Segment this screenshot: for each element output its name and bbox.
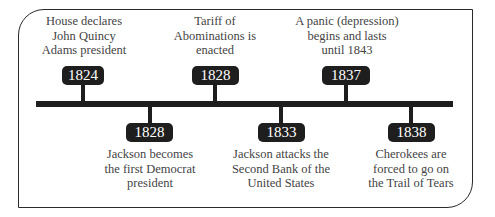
- event-label-1828-tariff: Tariff of Abominations is enacted: [145, 14, 285, 58]
- year-badge-1824: 1824: [62, 66, 104, 85]
- label-line: Adams president: [14, 43, 154, 58]
- stem-1828-top: [213, 85, 217, 102]
- stem-1828-bottom: [148, 106, 152, 124]
- stem-1838: [409, 106, 413, 124]
- label-line: begins and lasts: [277, 29, 417, 44]
- label-line: A panic (depression): [277, 14, 417, 29]
- label-line: enacted: [145, 43, 285, 58]
- label-line: Jackson becomes: [80, 147, 220, 162]
- year-badge-1833: 1833: [258, 123, 305, 142]
- label-line: Abominations is: [145, 29, 285, 44]
- label-line: forced to go on: [341, 162, 481, 177]
- event-label-1824: House declares John Quincy Adams preside…: [14, 14, 154, 58]
- stem-1824: [81, 85, 85, 102]
- label-line: until 1843: [277, 43, 417, 58]
- year-badge-1828-top: 1828: [192, 66, 239, 85]
- stem-1833: [279, 106, 283, 124]
- label-line: the Trail of Tears: [341, 176, 481, 191]
- timeline-bar: [36, 101, 453, 107]
- label-line: Tariff of: [145, 14, 285, 29]
- year-badge-1838: 1838: [388, 123, 435, 142]
- label-line: House declares: [14, 14, 154, 29]
- label-line: the first Democrat: [80, 162, 220, 177]
- event-label-1838: Cherokees are forced to go on the Trail …: [341, 147, 481, 191]
- year-badge-1837: 1837: [322, 66, 370, 85]
- event-label-1828-jackson: Jackson becomes the first Democrat presi…: [80, 147, 220, 191]
- stem-1837: [344, 85, 348, 102]
- year-badge-1828-bottom: 1828: [126, 123, 173, 142]
- label-line: Jackson attacks the: [211, 147, 351, 162]
- label-line: president: [80, 176, 220, 191]
- label-line: United States: [211, 176, 351, 191]
- label-line: Second Bank of the: [211, 162, 351, 177]
- event-label-1837: A panic (depression) begins and lasts un…: [277, 14, 417, 58]
- event-label-1833: Jackson attacks the Second Bank of the U…: [211, 147, 351, 191]
- label-line: John Quincy: [14, 29, 154, 44]
- label-line: Cherokees are: [341, 147, 481, 162]
